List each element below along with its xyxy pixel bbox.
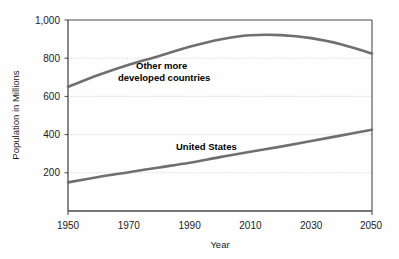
y-tick-label-400: 400 [43,129,60,140]
y-tick-label-1000: 1,000 [35,15,60,26]
x-tick-label-1970: 1970 [118,220,141,231]
y-tick-label-600: 600 [43,91,60,102]
y-tick-label-200: 200 [43,167,60,178]
y-axis-title: Population in Millions [10,70,21,159]
series-label-united-states: United States [176,141,237,152]
x-tick-label-2010: 2010 [239,220,262,231]
x-tick-label-1990: 1990 [178,220,201,231]
x-tick-label-2030: 2030 [300,220,323,231]
x-tick-label-1950: 1950 [57,220,80,231]
population-projection-chart: 1,000 800 600 400 200 1950 1970 1990 201… [0,0,399,259]
series-label-other-developed-line1: Other more [136,60,187,71]
y-tick-label-800: 800 [43,53,60,64]
series-label-other-developed-line2: developed countries [118,72,210,83]
chart-svg: 1,000 800 600 400 200 1950 1970 1990 201… [0,0,399,259]
x-axis-title: Year [210,239,229,250]
x-tick-label-2050: 2050 [360,220,383,231]
